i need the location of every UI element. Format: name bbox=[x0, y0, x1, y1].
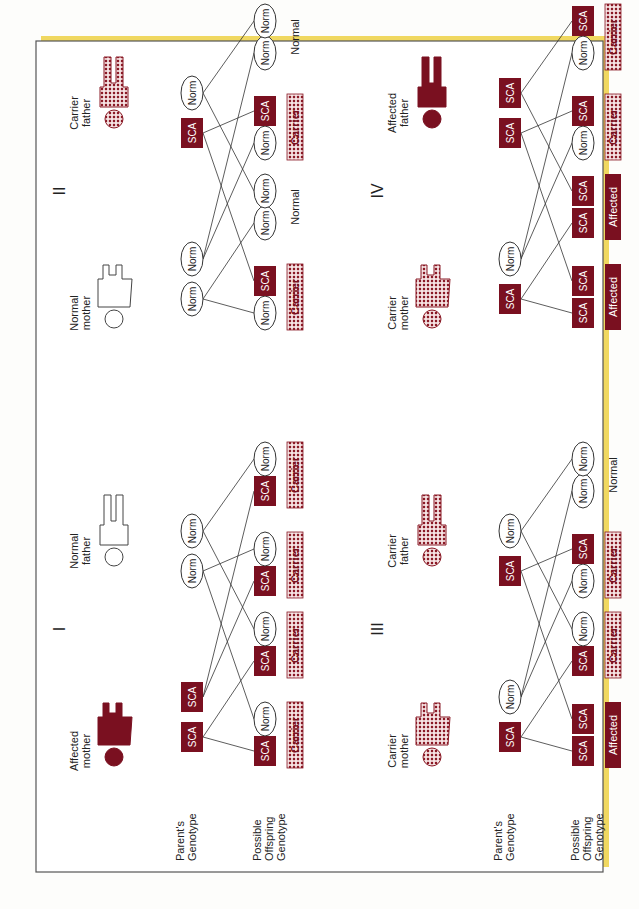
label-line: father bbox=[398, 537, 410, 565]
result-label: Normal bbox=[607, 457, 619, 492]
allele-label: SCA bbox=[260, 480, 271, 501]
allele-label: Norm bbox=[187, 519, 198, 543]
label-line: mother bbox=[80, 734, 92, 769]
result-label: Affected bbox=[607, 187, 619, 227]
allele-label: Norm bbox=[187, 559, 198, 583]
allele-label: Norm bbox=[260, 301, 271, 325]
head-icon bbox=[105, 548, 123, 566]
label-line: father bbox=[80, 537, 92, 565]
allele-label: Norm bbox=[578, 41, 589, 65]
result-label: Carrier bbox=[607, 108, 619, 145]
result-label: Affected bbox=[607, 715, 619, 755]
allele-label: SCA bbox=[578, 538, 589, 559]
panel-numeral: III bbox=[369, 622, 386, 635]
head-icon bbox=[423, 548, 441, 566]
result-label: Carrier bbox=[607, 546, 619, 583]
label-line: Genotype bbox=[504, 813, 516, 861]
head-icon bbox=[423, 310, 441, 328]
allele-label: SCA bbox=[578, 100, 589, 121]
result-label: Carrier bbox=[289, 716, 301, 753]
allele-label: Norm bbox=[260, 447, 271, 471]
allele-label: Norm bbox=[578, 569, 589, 593]
label-line: Carrier bbox=[386, 534, 398, 568]
panel-numeral: II bbox=[51, 187, 68, 196]
result-label: Affected bbox=[607, 277, 619, 317]
head-icon bbox=[105, 748, 123, 766]
label-line: Normal bbox=[68, 533, 80, 568]
allele-label: Norm bbox=[187, 81, 198, 105]
allele-label: SCA bbox=[187, 726, 198, 747]
inheritance-diagram: Parent'sGenotypePossibleOffspringGenotyp… bbox=[0, 0, 639, 909]
allele-label: Norm bbox=[260, 9, 271, 33]
figure-stage: Parent'sGenotypePossibleOffspringGenotyp… bbox=[0, 0, 639, 909]
allele-label: Norm bbox=[260, 41, 271, 65]
allele-label: SCA bbox=[505, 288, 516, 309]
allele-label: SCA bbox=[578, 180, 589, 201]
allele-label: Norm bbox=[505, 519, 516, 543]
allele-label: Norm bbox=[505, 685, 516, 709]
allele-label: Norm bbox=[260, 131, 271, 155]
label-line: Affected bbox=[68, 731, 80, 771]
head-icon bbox=[423, 110, 441, 128]
allele-label: SCA bbox=[187, 122, 198, 143]
label-line: father bbox=[398, 99, 410, 127]
allele-label: SCA bbox=[578, 708, 589, 729]
allele-label: Norm bbox=[187, 287, 198, 311]
allele-label: Norm bbox=[578, 447, 589, 471]
allele-label: Norm bbox=[260, 211, 271, 235]
allele-label: Norm bbox=[578, 617, 589, 641]
label-line: Carrier bbox=[386, 296, 398, 330]
offspring-genotype-label: PossibleOffspringGenotype bbox=[569, 813, 605, 861]
result-label: Carrier bbox=[289, 108, 301, 145]
father-label: Affectedfather bbox=[386, 93, 410, 133]
allele-label: SCA bbox=[578, 650, 589, 671]
label-line: Parent's bbox=[174, 820, 186, 861]
allele-label: SCA bbox=[578, 740, 589, 761]
label-line: mother bbox=[398, 734, 410, 769]
allele-label: Norm bbox=[260, 707, 271, 731]
mother-label: Affectedmother bbox=[68, 731, 92, 771]
label-line: Affected bbox=[386, 93, 398, 133]
allele-label: Norm bbox=[578, 131, 589, 155]
label-line: Possible bbox=[569, 819, 581, 861]
allele-label: SCA bbox=[260, 740, 271, 761]
result-label: Normal bbox=[289, 189, 301, 224]
result-label: Normal bbox=[289, 19, 301, 54]
head-icon bbox=[423, 748, 441, 766]
label-line: Carrier bbox=[68, 96, 80, 130]
label-line: Genotype bbox=[275, 813, 287, 861]
head-icon bbox=[105, 310, 123, 328]
label-line: Offspring bbox=[581, 817, 593, 861]
allele-label: SCA bbox=[260, 100, 271, 121]
result-label: Carrier bbox=[289, 546, 301, 583]
allele-label: Norm bbox=[578, 479, 589, 503]
father-label: Carrierfather bbox=[68, 96, 92, 130]
mother-label: Carriermother bbox=[386, 296, 410, 331]
label-line: mother bbox=[398, 296, 410, 331]
label-line: Genotype bbox=[186, 813, 198, 861]
allele-label: Norm bbox=[505, 247, 516, 271]
panel-numeral: I bbox=[51, 627, 68, 631]
allele-label: SCA bbox=[578, 212, 589, 233]
mother-label: Carriermother bbox=[386, 734, 410, 769]
allele-label: SCA bbox=[578, 302, 589, 323]
allele-label: SCA bbox=[578, 10, 589, 31]
label-line: Possible bbox=[251, 819, 263, 861]
label-line: Carrier bbox=[386, 734, 398, 768]
label-line: mother bbox=[80, 296, 92, 331]
label-line: Parent's bbox=[492, 820, 504, 861]
allele-label: SCA bbox=[260, 650, 271, 671]
allele-label: SCA bbox=[578, 270, 589, 291]
allele-label: SCA bbox=[260, 570, 271, 591]
allele-label: SCA bbox=[505, 122, 516, 143]
allele-label: Norm bbox=[260, 617, 271, 641]
label-line: Offspring bbox=[263, 817, 275, 861]
label-line: Genotype bbox=[593, 813, 605, 861]
offspring-genotype-label: PossibleOffspringGenotype bbox=[251, 813, 287, 861]
result-label: Carrier bbox=[607, 626, 619, 663]
mother-label: Normalmother bbox=[68, 295, 92, 330]
head-icon bbox=[105, 110, 123, 128]
allele-label: SCA bbox=[260, 270, 271, 291]
result-label: Carrier bbox=[289, 456, 301, 493]
father-label: Normalfather bbox=[68, 533, 92, 568]
